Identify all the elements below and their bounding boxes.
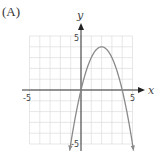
y-axis-label: y [76, 9, 84, 22]
y-axis-arrow-icon [78, 23, 84, 30]
y-tick-label-5: 5 [74, 34, 79, 43]
y-tick-label-neg5: -5 [71, 140, 79, 149]
parabola-chart: x y -5 5 5 -5 [0, 0, 161, 158]
x-axis-arrow-icon [138, 87, 145, 93]
x-tick-label-5: 5 [130, 94, 135, 103]
axes [22, 23, 145, 151]
x-axis-label: x [148, 84, 155, 97]
x-tick-label-neg5: -5 [23, 94, 31, 103]
